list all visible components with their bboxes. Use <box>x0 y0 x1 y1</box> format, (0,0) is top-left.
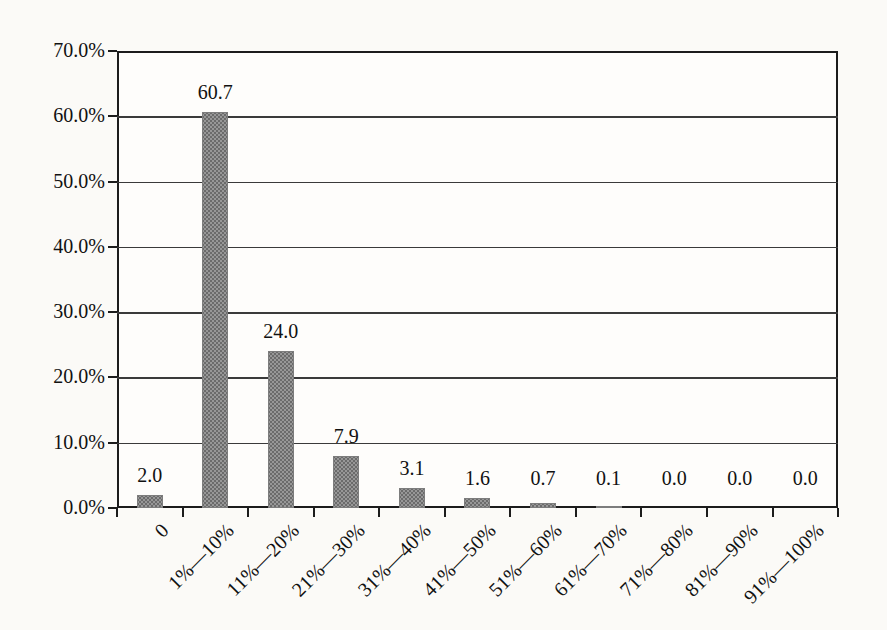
bar <box>596 506 622 508</box>
bar-value-label: 0.1 <box>596 467 621 489</box>
y-tick-mark <box>108 115 117 117</box>
category-slot: 2.0 <box>117 51 183 508</box>
bar-value-label: 24.0 <box>263 320 298 342</box>
x-tick-mark <box>837 508 839 517</box>
x-tick-mark <box>772 508 774 517</box>
bar <box>202 112 228 508</box>
x-tick-mark <box>247 508 249 517</box>
category-slot: 0.0 <box>707 51 773 508</box>
category-slot: 3.1 <box>379 51 445 508</box>
bar <box>137 495 163 508</box>
x-tick-label: 0 <box>150 519 173 542</box>
bar-value-label: 0.0 <box>793 467 818 489</box>
x-tick-mark <box>575 508 577 517</box>
x-tick-mark <box>378 508 380 517</box>
bar-chart: 70.0%60.0%50.0%40.0%30.0%20.0%10.0%0.0% … <box>0 0 887 630</box>
bar-value-label: 1.6 <box>465 467 490 489</box>
y-tick-mark <box>108 442 117 444</box>
category-slot: 0.0 <box>773 51 839 508</box>
bar-value-label: 3.1 <box>399 457 424 479</box>
x-tick-mark <box>116 508 118 517</box>
x-tick-mark <box>313 508 315 517</box>
y-tick-label: 70.0% <box>53 37 105 63</box>
x-tick-mark <box>182 508 184 517</box>
y-tick-label: 40.0% <box>53 233 105 259</box>
y-tick-mark <box>108 246 117 248</box>
bar-value-label: 0.0 <box>727 467 752 489</box>
category-slot: 24.0 <box>248 51 314 508</box>
bar-value-label: 0.0 <box>662 467 687 489</box>
category-slot: 0.0 <box>641 51 707 508</box>
bar-value-label: 0.7 <box>531 467 556 489</box>
bar <box>399 488 425 508</box>
y-tick-label: 20.0% <box>53 363 105 389</box>
bar-value-label: 7.9 <box>334 425 359 447</box>
bar <box>268 351 294 508</box>
category-slot: 7.9 <box>314 51 380 508</box>
bar <box>530 503 556 508</box>
y-tick-label: 30.0% <box>53 298 105 324</box>
x-tick-mark <box>509 508 511 517</box>
category-slot: 60.7 <box>183 51 249 508</box>
y-tick-mark <box>108 311 117 313</box>
x-tick-mark <box>640 508 642 517</box>
y-tick-label: 60.0% <box>53 102 105 128</box>
category-slot: 1.6 <box>445 51 511 508</box>
x-tick-mark <box>444 508 446 517</box>
bar <box>464 498 490 508</box>
y-tick-label: 10.0% <box>53 429 105 455</box>
bar-value-label: 2.0 <box>137 464 162 486</box>
y-tick-label: 50.0% <box>53 168 105 194</box>
y-tick-mark <box>108 50 117 52</box>
x-tick-mark <box>706 508 708 517</box>
y-tick-mark <box>108 376 117 378</box>
bar-value-label: 60.7 <box>198 81 233 103</box>
category-slot: 0.1 <box>576 51 642 508</box>
y-tick-label: 0.0% <box>63 494 105 520</box>
bar <box>333 456 359 508</box>
category-slot: 0.7 <box>510 51 576 508</box>
y-tick-mark <box>108 181 117 183</box>
